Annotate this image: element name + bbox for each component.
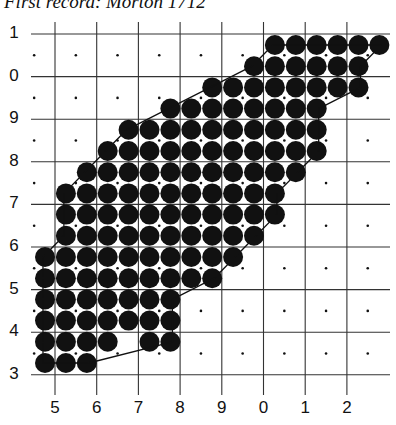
record-dot <box>98 205 118 225</box>
record-dot <box>265 120 285 140</box>
y-axis-label: 8 <box>4 151 24 171</box>
grid-centre-dot <box>325 224 328 227</box>
record-dot <box>202 99 222 119</box>
grid-centre-dot <box>325 182 328 185</box>
y-axis-label: 7 <box>4 193 24 213</box>
grid-centre-dot <box>241 139 244 142</box>
record-dot <box>56 247 76 267</box>
x-axis-label: 6 <box>87 398 107 418</box>
grid-centre-dot <box>33 54 36 57</box>
grid-centre-dot <box>33 267 36 270</box>
record-dot <box>140 120 160 140</box>
record-dot <box>119 247 139 267</box>
record-dot <box>140 141 160 161</box>
grid-centre-dot <box>366 182 369 185</box>
grid-centre-dot <box>283 352 286 355</box>
record-dot <box>349 56 369 76</box>
grid-centre-dot <box>75 310 78 313</box>
record-dot <box>119 226 139 246</box>
record-dot <box>160 268 180 288</box>
grid-centre-dot <box>75 352 78 355</box>
x-axis-label: 1 <box>295 398 315 418</box>
record-dot <box>265 77 285 97</box>
record-dot <box>98 311 118 331</box>
grid-centre-dot <box>366 267 369 270</box>
record-dot <box>77 311 97 331</box>
record-dot <box>119 268 139 288</box>
record-dot <box>286 141 306 161</box>
grid-centre-dot <box>158 182 161 185</box>
record-dot <box>286 99 306 119</box>
record-dot <box>119 141 139 161</box>
grid-centre-dot <box>200 139 203 142</box>
grid-centre-dot <box>366 54 369 57</box>
record-dot <box>307 120 327 140</box>
record-dot <box>140 183 160 203</box>
grid-centre-dot <box>33 182 36 185</box>
record-dot <box>77 268 97 288</box>
grid-centre-dot <box>200 267 203 270</box>
record-dot <box>119 311 139 331</box>
grid-centre-dot <box>200 310 203 313</box>
grid-centre-dot <box>325 267 328 270</box>
record-dot <box>77 226 97 246</box>
grid-centre-dot <box>116 352 119 355</box>
grid-centre-dot <box>241 97 244 100</box>
y-axis-label: 1 <box>4 23 24 43</box>
record-dot <box>77 205 97 225</box>
grid-centre-dot <box>116 97 119 100</box>
record-dot <box>328 56 348 76</box>
grid-centre-dot <box>325 139 328 142</box>
record-dot <box>160 120 180 140</box>
grid-centre-dot <box>158 139 161 142</box>
record-dot <box>202 141 222 161</box>
grid-centre-dot <box>33 139 36 142</box>
grid-centre-dot <box>325 310 328 313</box>
grid-centre-dot <box>200 224 203 227</box>
record-dot <box>244 205 264 225</box>
x-axis-label: 8 <box>170 398 190 418</box>
x-axis-label: 2 <box>337 398 357 418</box>
record-dot <box>56 205 76 225</box>
record-dot <box>202 183 222 203</box>
record-dot <box>202 247 222 267</box>
record-dot <box>244 56 264 76</box>
x-axis-label: 9 <box>212 398 232 418</box>
record-dot <box>223 77 243 97</box>
record-dot <box>181 183 201 203</box>
grid-centre-dot <box>325 352 328 355</box>
record-dot <box>35 311 55 331</box>
grid-centre-dot <box>158 97 161 100</box>
record-dot <box>160 183 180 203</box>
record-dot <box>244 183 264 203</box>
grid-centre-dot <box>241 267 244 270</box>
grid-centre-dot <box>325 97 328 100</box>
record-dot <box>286 77 306 97</box>
grid-centre-dot <box>158 310 161 313</box>
grid-centre-dot <box>283 224 286 227</box>
y-axis-label: 4 <box>4 321 24 341</box>
record-dot <box>244 162 264 182</box>
grid-centre-dot <box>366 224 369 227</box>
grid-centre-dot <box>241 224 244 227</box>
record-dot <box>98 247 118 267</box>
record-dot <box>35 268 55 288</box>
record-dot <box>119 289 139 309</box>
record-dot <box>202 120 222 140</box>
record-dot <box>181 247 201 267</box>
record-dot <box>140 268 160 288</box>
record-dot <box>328 77 348 97</box>
record-dot <box>265 141 285 161</box>
grid-centre-dot <box>366 352 369 355</box>
grid-centre-dot <box>116 54 119 57</box>
grid-centre-dot <box>158 54 161 57</box>
y-axis-label: 6 <box>4 236 24 256</box>
record-dot <box>98 183 118 203</box>
record-dot <box>119 183 139 203</box>
record-dot <box>265 183 285 203</box>
record-dot <box>35 289 55 309</box>
record-dot <box>307 99 327 119</box>
record-dot <box>98 162 118 182</box>
grid-centre-dot <box>33 352 36 355</box>
record-dot <box>56 289 76 309</box>
